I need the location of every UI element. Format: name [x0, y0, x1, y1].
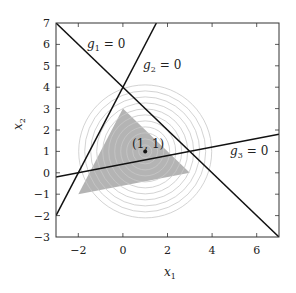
point-label: (1, 1) — [132, 137, 164, 151]
y-tick-label: 5 — [43, 60, 50, 73]
y-tick-label: −1 — [34, 188, 50, 201]
label-g3: g3= 0 — [230, 144, 268, 160]
constraint-diagram: −2 0 2 4 6 7 6 5 4 3 2 1 0 −1 −2 −3 g1= … — [0, 0, 296, 293]
y-tick-label: 0 — [43, 167, 50, 180]
y-tick-label: 4 — [43, 81, 50, 94]
y-tick-labels: 7 6 5 4 3 2 1 0 −1 −2 −3 — [34, 17, 50, 244]
feasible-region — [78, 109, 190, 195]
x-tick-label: 0 — [119, 244, 126, 257]
y-tick-label: 2 — [43, 124, 50, 137]
y-tick-label: −3 — [34, 231, 50, 244]
x-tick-labels: −2 0 2 4 6 — [70, 244, 260, 257]
x-tick-label: 4 — [209, 244, 216, 257]
y-tick-label: −2 — [34, 210, 50, 223]
x-axis-label: x1 — [164, 265, 176, 281]
x-tick-label: 6 — [253, 244, 260, 257]
label-g1: g1= 0 — [87, 37, 125, 53]
x-tick-label: 2 — [164, 244, 171, 257]
label-g2: g2= 0 — [143, 58, 181, 74]
y-tick-label: 1 — [43, 145, 50, 158]
plot-area — [56, 23, 279, 237]
constraint-line-g1 — [56, 23, 279, 237]
y-axis-label: x2 — [11, 118, 27, 130]
x-tick-label: −2 — [70, 244, 86, 257]
y-tick-label: 3 — [43, 103, 50, 116]
y-tick-label: 6 — [43, 38, 50, 51]
y-tick-label: 7 — [43, 17, 50, 30]
